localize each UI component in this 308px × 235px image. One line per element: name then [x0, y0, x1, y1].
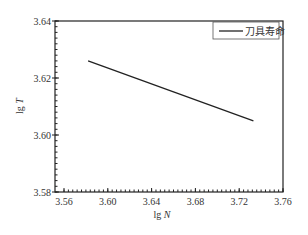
legend-label: 刀具寿命: [245, 25, 285, 37]
chart-canvas: 3.563.603.643.683.723.76 3.583.603.623.6…: [0, 0, 308, 235]
y-tick-label: 3.62: [34, 73, 52, 84]
x-tick-label: 3.64: [143, 196, 161, 207]
x-axis-label: lg N: [154, 209, 172, 220]
x-tick-label: 3.60: [99, 196, 117, 207]
y-tick-label: 3.60: [34, 130, 52, 141]
plot-frame: [55, 21, 283, 192]
x-tick-label: 3.68: [187, 196, 205, 207]
tool-life-line: [88, 61, 253, 121]
x-tick-label: 3.56: [55, 196, 73, 207]
y-tick-label: 3.58: [34, 187, 52, 198]
x-tick-label: 3.76: [274, 196, 292, 207]
legend: 刀具寿命: [213, 22, 285, 39]
x-tick-label: 3.72: [230, 196, 248, 207]
y-tick-label: 3.64: [34, 16, 52, 27]
minor-ticks: [55, 21, 283, 192]
y-axis-label: lg T: [14, 97, 25, 114]
